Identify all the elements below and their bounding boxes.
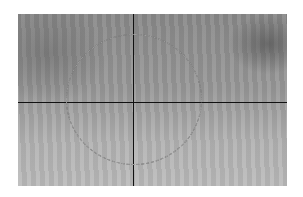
grayscale-image [18, 14, 287, 186]
dashed-circle-overlay [66, 34, 202, 165]
